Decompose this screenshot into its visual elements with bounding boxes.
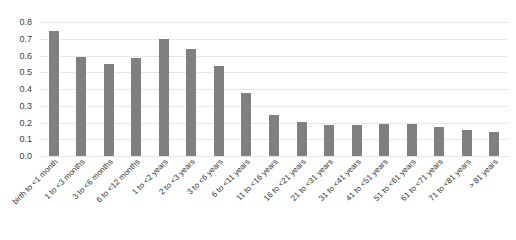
bar[interactable] bbox=[407, 124, 417, 156]
bar[interactable] bbox=[462, 130, 472, 156]
chart-title bbox=[0, 0, 516, 4]
bar[interactable] bbox=[76, 57, 86, 156]
bar-slot bbox=[40, 22, 68, 156]
bar-slot bbox=[425, 22, 453, 156]
y-axis: 0.00.10.20.30.40.50.60.70.8 bbox=[0, 22, 36, 156]
y-tick-label: 0.3 bbox=[19, 101, 32, 110]
x-tick-slot: > 81 years bbox=[480, 156, 508, 240]
bar[interactable] bbox=[104, 64, 114, 156]
bar[interactable] bbox=[324, 125, 334, 156]
y-tick-label: 0.1 bbox=[19, 135, 32, 144]
x-tick-slot: 3 to <6 years bbox=[205, 156, 233, 240]
y-tick-label: 0.2 bbox=[19, 118, 32, 127]
bar-slot bbox=[95, 22, 123, 156]
x-tick-slot: 2 to <3 years bbox=[178, 156, 206, 240]
bar[interactable] bbox=[352, 125, 362, 156]
bar-slot bbox=[370, 22, 398, 156]
bar[interactable] bbox=[269, 115, 279, 156]
bar-slot bbox=[150, 22, 178, 156]
bar-chart-figure: 0.00.10.20.30.40.50.60.70.8 birth to <1 … bbox=[0, 0, 516, 240]
x-tick-slot: 1 to <3 months bbox=[68, 156, 96, 240]
bar[interactable] bbox=[434, 127, 444, 156]
bar[interactable] bbox=[214, 66, 224, 156]
bar[interactable] bbox=[49, 31, 59, 156]
y-tick-label: 0.5 bbox=[19, 68, 32, 77]
bar-slot bbox=[315, 22, 343, 156]
y-tick-label: 0.0 bbox=[19, 152, 32, 161]
y-tick-label: 0.8 bbox=[19, 18, 32, 27]
bar-slot bbox=[260, 22, 288, 156]
bar[interactable] bbox=[489, 132, 499, 156]
bar[interactable] bbox=[379, 124, 389, 156]
x-tick-slot: 71 to <81 years bbox=[453, 156, 481, 240]
bar[interactable] bbox=[186, 49, 196, 156]
bar-slot bbox=[123, 22, 151, 156]
bar-slot bbox=[288, 22, 316, 156]
y-tick-label: 0.6 bbox=[19, 51, 32, 60]
bar-slot bbox=[480, 22, 508, 156]
plot-area bbox=[40, 22, 508, 156]
bar-slot bbox=[68, 22, 96, 156]
bar-slot bbox=[233, 22, 261, 156]
bar[interactable] bbox=[241, 93, 251, 156]
bar[interactable] bbox=[131, 58, 141, 156]
x-tick-slot: 1 to <2 years bbox=[150, 156, 178, 240]
bar-slot bbox=[453, 22, 481, 156]
y-tick-label: 0.7 bbox=[19, 34, 32, 43]
bar-slot bbox=[398, 22, 426, 156]
x-tick-slot: 6 to <12 months bbox=[123, 156, 151, 240]
x-tick-slot: birth to <1 month bbox=[40, 156, 68, 240]
bar[interactable] bbox=[159, 39, 169, 156]
y-tick-label: 0.4 bbox=[19, 85, 32, 94]
bar-slot bbox=[343, 22, 371, 156]
bar[interactable] bbox=[297, 122, 307, 156]
bar-slot bbox=[205, 22, 233, 156]
bars-layer bbox=[40, 22, 508, 156]
bar-slot bbox=[178, 22, 206, 156]
x-axis: birth to <1 month1 to <3 months3 to <6 m… bbox=[40, 156, 508, 240]
x-tick-label: birth to <1 month bbox=[11, 158, 59, 206]
